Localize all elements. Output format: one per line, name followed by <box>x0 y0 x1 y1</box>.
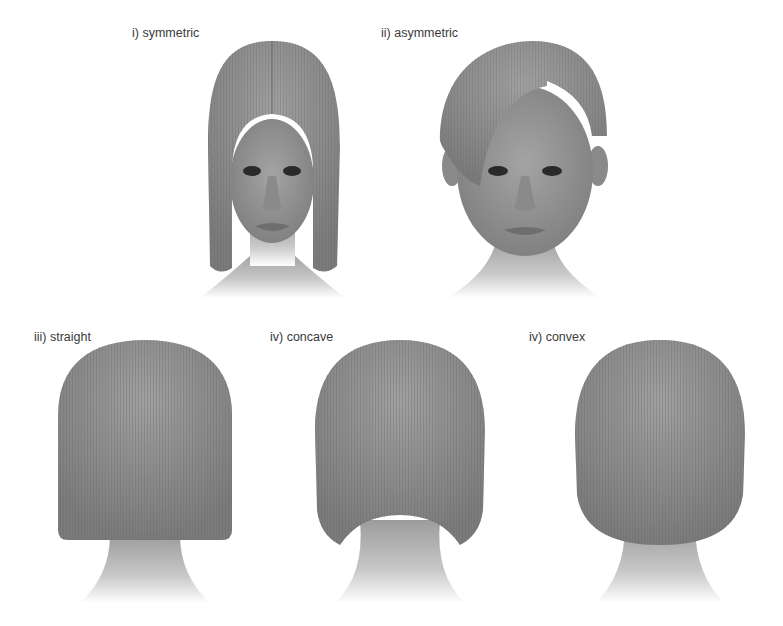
figure-symmetric <box>180 36 365 298</box>
figure-asymmetric <box>432 36 617 298</box>
figure-straight <box>50 335 240 605</box>
figure-convex <box>565 335 755 605</box>
figure-concave <box>305 335 495 605</box>
